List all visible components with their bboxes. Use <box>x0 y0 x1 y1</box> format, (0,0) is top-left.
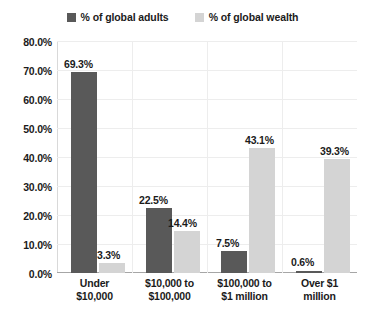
bar-group: 69.3% 3.3% <box>57 41 132 273</box>
legend-label: % of global wealth <box>209 12 299 23</box>
legend-swatch-icon <box>67 13 76 22</box>
category-label-line: Over $1 <box>282 277 357 290</box>
bar-value-label: 39.3% <box>320 146 349 157</box>
category-label-line: $1 million <box>207 290 282 303</box>
bar-value-label: 43.1% <box>245 135 274 146</box>
plot-area: 69.3% 3.3% 22.5% 14.4% 7.5% 43.1% 0.6% 3… <box>57 41 357 273</box>
category-label-line: $100,000 <box>132 290 207 303</box>
y-tick-label: 10.0% <box>0 240 52 251</box>
bar-global-adults <box>221 251 247 273</box>
bar-value-label: 3.3% <box>97 250 120 261</box>
legend-item-global-adults: % of global adults <box>67 12 169 23</box>
bar-group: 7.5% 43.1% <box>207 41 282 273</box>
bar-global-wealth <box>249 148 275 273</box>
bar-global-adults <box>296 271 322 273</box>
bar-value-label: 69.3% <box>64 59 93 70</box>
bar-global-wealth <box>99 263 125 273</box>
y-tick-label: 30.0% <box>0 182 52 193</box>
y-tick-label: 40.0% <box>0 153 52 164</box>
legend-item-global-wealth: % of global wealth <box>195 12 299 23</box>
y-tick-label: 80.0% <box>0 37 52 48</box>
chart-legend: % of global adults % of global wealth <box>0 12 365 23</box>
category-label-line: Under <box>57 277 132 290</box>
category-label-line: $10,000 <box>57 290 132 303</box>
bar-value-label: 0.6% <box>291 257 314 268</box>
y-tick-label: 60.0% <box>0 95 52 106</box>
category-label-under-10000: Under $10,000 <box>57 277 132 303</box>
legend-swatch-icon <box>195 13 204 22</box>
legend-label: % of global adults <box>81 12 169 23</box>
bar-global-adults <box>71 72 97 273</box>
bar-chart: % of global adults % of global wealth 80… <box>0 0 365 321</box>
y-tick-label: 20.0% <box>0 211 52 222</box>
category-label-10000-to-100000: $10,000 to $100,000 <box>132 277 207 303</box>
bar-value-label: 22.5% <box>139 195 168 206</box>
bar-group: 22.5% 14.4% <box>132 41 207 273</box>
category-label-100000-to-1-million: $100,000 to $1 million <box>207 277 282 303</box>
y-tick-label: 0.0% <box>0 269 52 280</box>
bar-group: 0.6% 39.3% <box>282 41 357 273</box>
bar-value-label: 7.5% <box>216 238 239 249</box>
y-tick-label: 70.0% <box>0 66 52 77</box>
bar-global-wealth <box>324 159 350 273</box>
category-label-over-1-million: Over $1 million <box>282 277 357 303</box>
category-label-line: million <box>282 290 357 303</box>
category-label-line: $100,000 to <box>207 277 282 290</box>
y-tick-label: 50.0% <box>0 124 52 135</box>
category-label-line: $10,000 to <box>132 277 207 290</box>
bar-global-wealth <box>174 231 200 273</box>
bar-value-label: 14.4% <box>168 218 197 229</box>
